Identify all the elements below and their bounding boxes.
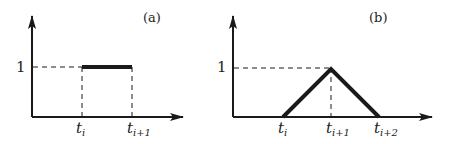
tick-label-ti1: ti+1 xyxy=(127,119,151,138)
y-label-one: 1 xyxy=(217,58,227,76)
tick-label-ti: ti xyxy=(76,119,85,138)
tick-label-ti2: ti+2 xyxy=(374,119,398,138)
panel-tag: (a) xyxy=(143,10,161,25)
tick-label-ti: ti xyxy=(278,119,287,138)
y-label-one: 1 xyxy=(16,58,26,76)
panel-a: 1 (a) ti ti+1 xyxy=(16,10,183,138)
basis-functions-diagram: 1 (a) ti ti+1 1 (b) ti ti+1 ti+2 xyxy=(0,0,450,144)
panel-b: 1 (b) ti ti+1 ti+2 xyxy=(217,10,432,138)
panel-tag: (b) xyxy=(369,10,387,25)
hat-function xyxy=(283,69,379,117)
tick-label-ti1: ti+1 xyxy=(326,119,350,138)
